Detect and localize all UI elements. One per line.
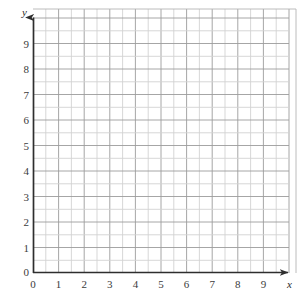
x-tick-label-5: 5 [158,279,164,290]
x-tick-label-9: 9 [261,279,267,290]
coordinate-grid-figure: 0 1 2 3 4 5 6 7 8 9 0 1 2 3 4 5 6 7 8 9 … [0,0,306,300]
y-tick-label-6: 6 [19,115,29,126]
x-axis-label: x [287,279,292,290]
x-tick-label-8: 8 [235,279,241,290]
y-tick-label-8: 8 [19,64,29,75]
y-tick-label-0: 0 [19,267,29,278]
x-tick-label-1: 1 [56,279,62,290]
y-tick-label-2: 2 [19,217,29,228]
y-axis-label: y [22,7,27,18]
y-tick-label-7: 7 [19,89,29,100]
y-tick-label-1: 1 [19,242,29,253]
y-tick-label-9: 9 [19,38,29,49]
x-tick-label-2: 2 [81,279,87,290]
x-tick-label-4: 4 [133,279,139,290]
x-tick-label-0: 0 [30,279,36,290]
x-tick-label-6: 6 [184,279,190,290]
x-tick-label-3: 3 [107,279,113,290]
y-tick-label-4: 4 [19,166,29,177]
y-tick-label-5: 5 [19,140,29,151]
x-tick-label-7: 7 [209,279,215,290]
y-tick-label-3: 3 [19,191,29,202]
grid-canvas [0,0,306,300]
